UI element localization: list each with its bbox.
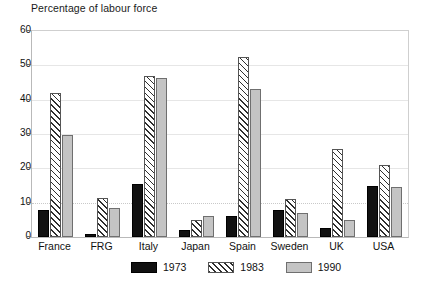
bar-group (126, 31, 173, 237)
bar (285, 199, 296, 237)
legend-label-1983: 1983 (240, 262, 263, 273)
bar (179, 230, 190, 237)
x-axis-label-usa: USA (360, 240, 407, 253)
bottom-caption (6, 289, 256, 296)
bar (191, 220, 202, 237)
bar-group (32, 31, 79, 237)
bar (132, 184, 143, 237)
bar-group (361, 31, 408, 237)
y-axis: 0102030405060 (0, 30, 31, 238)
bar (379, 165, 390, 237)
bar-group (173, 31, 220, 237)
x-axis-label-japan: Japan (172, 240, 219, 253)
bar (50, 93, 61, 237)
legend-swatch-1990 (286, 262, 312, 273)
x-axis-label-spain: Spain (219, 240, 266, 253)
bar (109, 208, 120, 237)
x-axis-label-frg: FRG (78, 240, 125, 253)
x-axis-label-france: France (31, 240, 78, 253)
bar-group (220, 31, 267, 237)
bar (85, 234, 96, 237)
bar (297, 213, 308, 237)
legend-item-1990: 1990 (286, 262, 341, 273)
bar (203, 216, 214, 237)
bar (62, 135, 73, 237)
legend-label-1990: 1990 (318, 262, 341, 273)
plot-area (31, 30, 409, 238)
bar-group (314, 31, 361, 237)
chart-title: Percentage of labour force (31, 2, 157, 15)
bar (391, 187, 402, 237)
x-axis-label-italy: Italy (125, 240, 172, 253)
x-axis-label-uk: UK (313, 240, 360, 253)
bar (367, 186, 378, 238)
bar (97, 198, 108, 237)
bar (238, 57, 249, 237)
legend-item-1983: 1983 (208, 262, 263, 273)
legend-item-1973: 1973 (131, 262, 186, 273)
bar (38, 210, 49, 237)
legend-swatch-1983 (208, 262, 234, 273)
x-axis-labels: FranceFRGItalyJapanSpainSwedenUKUSA (31, 240, 409, 256)
plot-inner (32, 31, 408, 237)
bar-group (267, 31, 314, 237)
bar (144, 76, 155, 237)
bar (320, 228, 331, 237)
bar-group (79, 31, 126, 237)
bar (226, 216, 237, 237)
bar (344, 220, 355, 237)
bar (156, 78, 167, 237)
bar (332, 149, 343, 237)
bar (273, 210, 284, 237)
bar (250, 89, 261, 237)
x-axis-label-sweden: Sweden (266, 240, 313, 253)
legend-swatch-1973 (131, 262, 157, 273)
bar-chart: Percentage of labour force 0102030405060… (0, 0, 421, 298)
chart-legend: 197319831990 (131, 259, 363, 275)
legend-label-1973: 1973 (163, 262, 186, 273)
